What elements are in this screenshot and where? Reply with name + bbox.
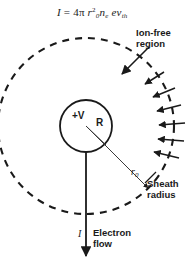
velocity-term: vth <box>117 6 128 18</box>
equation-lhs: I <box>57 6 61 18</box>
flux-arrow <box>158 139 184 141</box>
ion-free-region-label-line2: region <box>136 39 171 50</box>
flux-arrow <box>159 123 185 125</box>
sheath-radius-term: r20 <box>88 6 100 18</box>
figure-canvas: I = 4π r20ne evth Ion-free region Sheath… <box>0 0 193 269</box>
flux-arrow <box>153 88 175 97</box>
current-equation: I = 4π r20ne evth <box>57 6 128 21</box>
electron-flux-arrows <box>145 72 185 158</box>
probe-potential-label: +V <box>72 110 85 121</box>
velocity-subscript: th <box>122 12 128 20</box>
electron-flow-label: Electron flow <box>93 228 131 249</box>
sheath-radius-symbol-label: r0 <box>131 166 138 180</box>
flux-arrow <box>145 72 164 84</box>
sheath-radius-label-line2: radius <box>147 190 179 201</box>
flux-arrow <box>157 105 181 111</box>
ion-free-leader-line <box>122 47 149 74</box>
sheath-radius-label: Sheath radius <box>147 179 179 200</box>
sheath-radius-line <box>86 126 148 188</box>
pi-symbol: π <box>79 6 85 18</box>
density-term: ne <box>100 6 109 18</box>
density-subscript: e <box>105 12 108 20</box>
electron-flow-label-line2: flow <box>93 239 131 250</box>
current-symbol-label: I <box>78 228 81 239</box>
flux-arrow <box>154 152 179 158</box>
ion-free-region-label: Ion-free region <box>136 28 171 49</box>
equation-equals: = <box>64 6 70 18</box>
r0-subscript: 0 <box>135 171 139 179</box>
probe-radius-label: R <box>96 117 103 128</box>
